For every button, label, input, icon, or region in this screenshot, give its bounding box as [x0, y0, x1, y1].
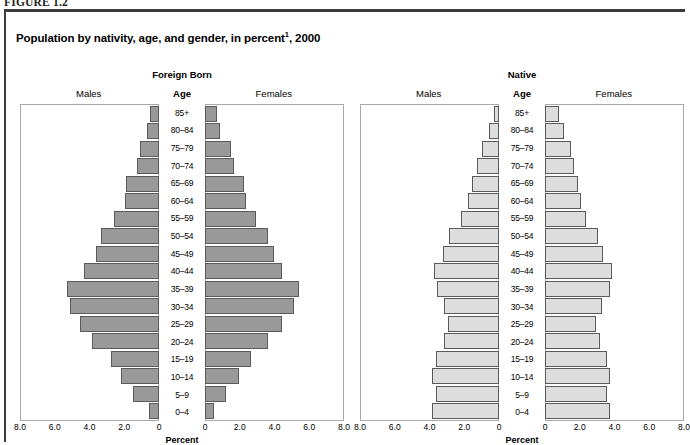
- bar-0_4: [149, 403, 159, 419]
- age-labels-foreign-born: 85+80–8475–7970–7465–6960–6455–5950–5445…: [159, 104, 205, 421]
- bar-5_9: [436, 386, 499, 402]
- pyramid-row: [21, 263, 158, 281]
- pyramid-row: [21, 333, 158, 351]
- bar-20_24: [205, 333, 268, 349]
- bar-35_39: [545, 281, 610, 297]
- bar-0_4: [432, 403, 499, 419]
- x-axis-native: 8.08.06.06.04.04.02.02.000: [360, 422, 684, 436]
- pyramid-row: [546, 350, 683, 368]
- plot-half-males-native: [360, 104, 499, 421]
- bar-70_74: [545, 158, 574, 174]
- x-tick-female: 2.0: [234, 422, 246, 432]
- age-group-label: 5–9: [499, 386, 545, 404]
- bar-10_14: [545, 368, 610, 384]
- age-group-label: 45–49: [159, 245, 205, 263]
- age-group-label: 85+: [159, 104, 205, 122]
- bar-70_74: [137, 158, 159, 174]
- bars-males-foreign-born: [21, 105, 158, 420]
- pyramid-row: [546, 368, 683, 386]
- age-group-label: 5–9: [159, 386, 205, 404]
- pyramid-row: [546, 158, 683, 176]
- plot-half-males-foreign-born: [20, 104, 159, 421]
- age-labels-native: 85+80–8475–7970–7465–6960–6455–5950–5445…: [499, 104, 545, 421]
- age-group-label: 0–4: [499, 403, 545, 421]
- pyramid-row: [206, 315, 343, 333]
- x-axis-title-native: Percent: [354, 435, 690, 445]
- bar-80_84: [147, 123, 159, 139]
- pyramid-row: [21, 298, 158, 316]
- axis-label-age-foreign-born: Age: [14, 88, 350, 99]
- age-group-label: 75–79: [159, 139, 205, 157]
- axis-label-females-foreign-born: Females: [256, 88, 292, 99]
- bar-55_59: [461, 211, 499, 227]
- pyramid-row: [206, 385, 343, 403]
- x-tick-male: 4.0: [424, 422, 436, 432]
- pyramid-row: [546, 333, 683, 351]
- pyramid-row: [546, 245, 683, 263]
- pyramid-row: [361, 123, 498, 141]
- bar-35_39: [437, 281, 499, 297]
- bar-40_44: [84, 263, 159, 279]
- bar-15_19: [111, 351, 159, 367]
- bar-40_44: [545, 263, 612, 279]
- bar-75_79: [545, 141, 571, 157]
- pyramid-row: [21, 228, 158, 246]
- pyramid-row: [21, 175, 158, 193]
- age-group-label: 35–39: [499, 280, 545, 298]
- bar-30_34: [444, 298, 499, 314]
- bar-20_24: [444, 333, 499, 349]
- bar-85+: [205, 106, 217, 122]
- pyramid-row: [546, 210, 683, 228]
- pyramid-row: [546, 263, 683, 281]
- pyramid-native: Native Males Age Females 85+80–8475–7970…: [354, 69, 690, 444]
- bar-30_34: [205, 298, 294, 314]
- pyramid-row: [361, 298, 498, 316]
- pyramid-row: [361, 333, 498, 351]
- age-group-label: 85+: [499, 104, 545, 122]
- x-tick-male: 8.0: [354, 422, 366, 432]
- pyramid-row: [206, 263, 343, 281]
- bars-males-native: [361, 105, 498, 420]
- bar-40_44: [205, 263, 282, 279]
- bar-30_34: [545, 298, 602, 314]
- pyramid-row: [206, 193, 343, 211]
- x-tick-male: 6.0: [389, 422, 401, 432]
- pyramid-row: [361, 403, 498, 421]
- pyramid-row: [21, 140, 158, 158]
- age-group-label: 25–29: [499, 315, 545, 333]
- age-group-label: 0–4: [159, 403, 205, 421]
- x-tick-male: 0: [497, 422, 502, 432]
- bar-70_74: [477, 158, 499, 174]
- page-title: Population by nativity, age, and gender,…: [16, 32, 320, 44]
- x-axis-title-foreign-born: Percent: [14, 435, 350, 445]
- bar-50_54: [545, 228, 598, 244]
- pyramid-row: [361, 175, 498, 193]
- plot-area-native: 85+80–8475–7970–7465–6960–6455–5950–5445…: [360, 104, 684, 421]
- bar-25_29: [545, 316, 596, 332]
- x-tick-male: 2.0: [118, 422, 130, 432]
- pyramid-row: [206, 175, 343, 193]
- age-group-label: 60–64: [499, 192, 545, 210]
- bar-25_29: [205, 316, 282, 332]
- age-group-label: 75–79: [499, 139, 545, 157]
- pyramid-row: [546, 280, 683, 298]
- figure-label: FIGURE 1.2: [4, 0, 68, 8]
- pyramid-row: [361, 368, 498, 386]
- pyramid-row: [206, 245, 343, 263]
- age-group-label: 70–74: [159, 157, 205, 175]
- pyramid-foreign-born: Foreign Born Males Age Females 85+80–847…: [14, 69, 350, 444]
- pyramid-row: [206, 280, 343, 298]
- pyramid-heading-native: Native: [354, 69, 690, 80]
- age-group-label: 15–19: [499, 351, 545, 369]
- pyramid-row: [546, 175, 683, 193]
- bar-65_69: [472, 176, 499, 192]
- pyramid-row: [206, 298, 343, 316]
- x-tick-female: 2.0: [574, 422, 586, 432]
- age-group-label: 25–29: [159, 315, 205, 333]
- page-title-year: , 2000: [289, 32, 320, 44]
- bar-30_34: [70, 298, 159, 314]
- x-tick-female: 4.0: [609, 422, 621, 432]
- pyramid-row: [546, 298, 683, 316]
- bar-10_14: [121, 368, 159, 384]
- pyramid-row: [546, 403, 683, 421]
